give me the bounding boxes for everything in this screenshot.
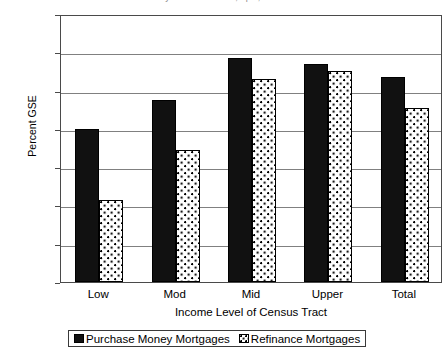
bar-upper-refinance-mortgages — [328, 71, 352, 282]
bar-mod-refinance-mortgages — [176, 150, 200, 282]
y-axis-title: Percent GSE — [26, 66, 38, 186]
y-tick-mark — [55, 206, 60, 207]
bar-upper-purchase-money-mortgages — [304, 64, 328, 282]
bar-mid-refinance-mortgages — [252, 79, 276, 282]
legend-swatch-solid-icon — [74, 334, 84, 343]
y-tick-mark — [55, 283, 60, 284]
y-tick-mark — [55, 92, 60, 93]
legend-item-purchase-money-mortgages: Purchase Money Mortgages — [74, 333, 230, 345]
bar-mid-purchase-money-mortgages — [228, 58, 252, 282]
gridline — [61, 54, 441, 55]
legend-label-purchase-money-mortgages: Purchase Money Mortgages — [86, 333, 230, 345]
y-tick-mark — [55, 15, 60, 16]
x-tick-label-total: Total — [359, 288, 448, 300]
y-tick-mark — [55, 130, 60, 131]
chart-title-text: y of Census Tract, April, 2000 — [0, 0, 448, 2]
chart-legend: Purchase Money Mortgages Refinance Mortg… — [68, 330, 366, 347]
bar-mod-purchase-money-mortgages — [152, 100, 176, 282]
x-axis-title: Income Level of Census Tract — [60, 306, 442, 318]
y-tick-mark — [55, 53, 60, 54]
bar-total-refinance-mortgages — [405, 108, 429, 282]
y-tick-mark — [55, 245, 60, 246]
plot-area — [60, 15, 442, 283]
bar-low-refinance-mortgages — [99, 200, 123, 282]
bar-low-purchase-money-mortgages — [75, 129, 99, 282]
y-tick-mark — [55, 168, 60, 169]
chart-title-clipped: y of Census Tract, April, 2000 — [0, 0, 448, 5]
legend-swatch-dotted-icon — [239, 334, 249, 343]
legend-label-refinance-mortgages: Refinance Mortgages — [251, 333, 360, 345]
legend-item-refinance-mortgages: Refinance Mortgages — [239, 333, 360, 345]
bar-chart-figure: y of Census Tract, April, 2000 Percent G… — [0, 0, 448, 349]
bar-total-purchase-money-mortgages — [381, 77, 405, 282]
